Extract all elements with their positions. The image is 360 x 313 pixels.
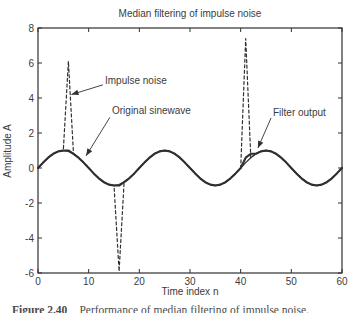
annotation-impulse-noise: Impulse noise — [105, 74, 167, 88]
axis-box — [38, 28, 342, 273]
y-tick-label: 4 — [28, 93, 34, 104]
annotation-original-sinewave: Original sinewave — [112, 104, 191, 118]
annotation-arrowhead — [71, 90, 79, 95]
y-tick-label: -4 — [25, 233, 34, 244]
annotation-arrowhead — [258, 141, 263, 149]
y-tick-label: 8 — [28, 23, 34, 34]
annotation-arrowhead — [86, 148, 92, 156]
figure-caption-number: Figure 2.40 — [12, 304, 67, 313]
x-axis-label: Time index n — [38, 286, 342, 297]
figure-caption: Figure 2.40Performance of median filteri… — [12, 304, 360, 313]
figure: Median filtering of impulse noise Amplit… — [0, 0, 360, 313]
y-tick-label: 2 — [28, 128, 34, 139]
series-impulse-noise-line — [38, 39, 342, 272]
y-tick-label: -6 — [25, 268, 34, 279]
annotation-filter-output: Filter output — [273, 106, 326, 120]
series-original-sinewave-line — [38, 151, 342, 186]
figure-caption-text: Performance of median filtering of impul… — [79, 304, 309, 313]
y-tick-label: -2 — [25, 198, 34, 209]
y-tick-label: 6 — [28, 58, 34, 69]
y-tick-label: 0 — [28, 163, 34, 174]
plot-canvas: 0102030405060-6-4-202468 — [0, 0, 360, 313]
